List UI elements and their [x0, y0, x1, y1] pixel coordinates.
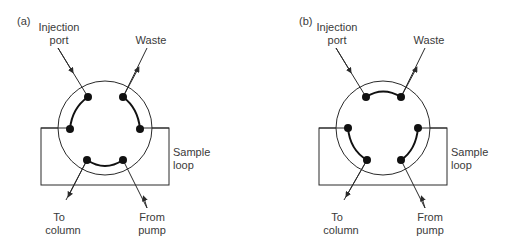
label-sample: Sample: [173, 146, 210, 158]
label-loop: loop: [173, 159, 194, 171]
label-column: column: [323, 224, 358, 236]
label-port: port: [328, 34, 347, 46]
label-pump: pump: [416, 224, 444, 236]
pump-line: [401, 160, 425, 208]
label-from: From: [417, 211, 443, 223]
panel-b: (b) Injection port Waste Sample loop To: [299, 15, 488, 236]
injection-valve-diagram: (a) Injection port Wa: [0, 0, 508, 247]
label-waste: Waste: [136, 34, 167, 46]
label-waste: Waste: [414, 34, 445, 46]
label-from: From: [139, 211, 165, 223]
pump-line: [123, 160, 147, 208]
label-column: column: [45, 224, 80, 236]
label-pump: pump: [138, 224, 166, 236]
panel-a-tag: (a): [17, 15, 30, 27]
label-loop: loop: [451, 159, 472, 171]
panel-b-tag: (b): [299, 15, 312, 27]
label-sample: Sample: [451, 146, 488, 158]
label-port: port: [50, 34, 69, 46]
label-to: To: [331, 211, 343, 223]
label-injection: Injection: [39, 21, 80, 33]
panel-a: (a) Injection port Wa: [17, 15, 210, 236]
label-to: To: [53, 211, 65, 223]
label-injection: Injection: [317, 21, 358, 33]
